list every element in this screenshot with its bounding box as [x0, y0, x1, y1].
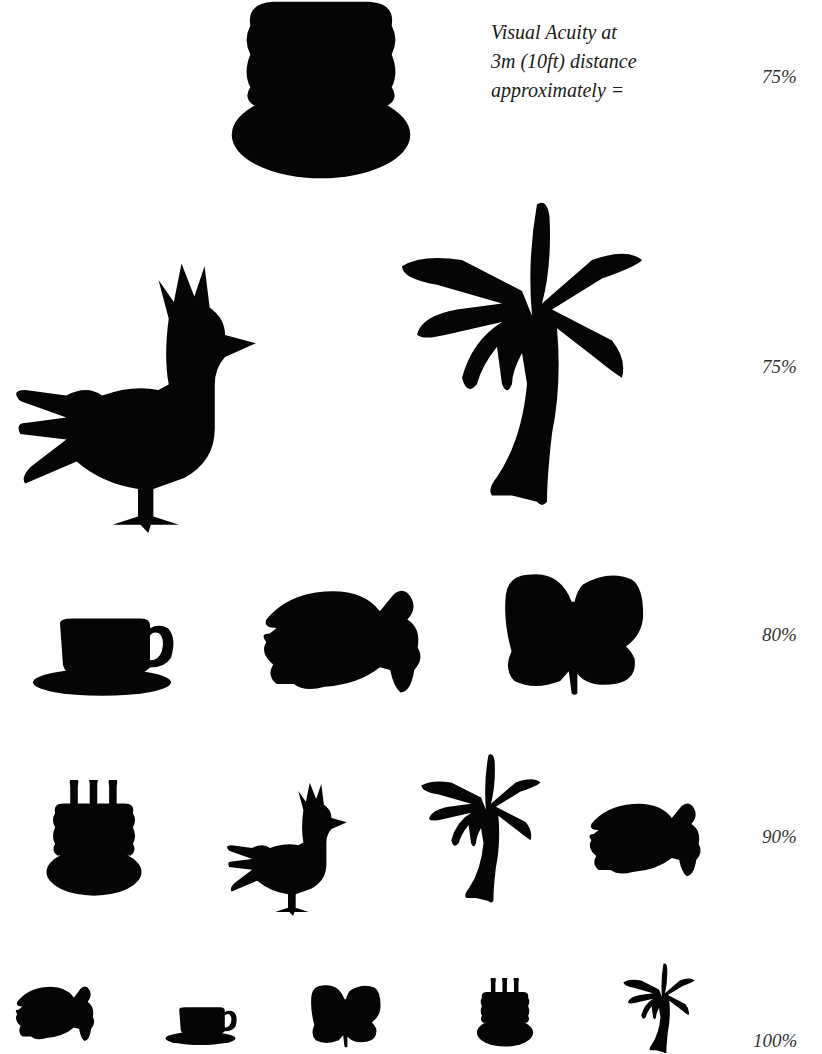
row-3-acuity: 80% — [762, 624, 797, 646]
caption-line-1: Visual Acuity at — [491, 18, 637, 47]
caption-line-3: approximately = — [491, 76, 637, 105]
row-5-acuity: 100% — [753, 1030, 797, 1052]
fish-icon — [256, 586, 428, 698]
cake-icon — [228, 0, 414, 182]
palm-tree-icon — [397, 198, 647, 508]
fish-icon — [584, 800, 706, 880]
acuity-caption: Visual Acuity at 3m (10ft) distance appr… — [491, 18, 637, 105]
fish-icon — [12, 984, 98, 1044]
palm-tree-icon — [419, 752, 543, 904]
cake-icon — [40, 780, 148, 898]
caption-line-2: 3m (10ft) distance — [491, 47, 637, 76]
rooster-icon — [10, 258, 266, 533]
palm-tree-icon — [622, 962, 696, 1054]
row-4-acuity: 90% — [762, 826, 797, 848]
cake-icon — [473, 978, 537, 1048]
teacup-icon — [164, 1006, 240, 1048]
rooster-icon — [224, 780, 352, 916]
row-2-acuity: 75% — [762, 356, 797, 378]
butterfly-icon — [503, 572, 646, 696]
teacup-icon — [30, 616, 180, 702]
butterfly-icon — [310, 984, 382, 1048]
row-1-acuity: 75% — [762, 66, 797, 88]
